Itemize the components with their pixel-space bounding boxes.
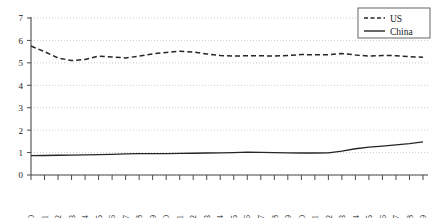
x-tick-label: 2004 bbox=[351, 214, 361, 218]
y-tick-label: 1 bbox=[19, 148, 24, 158]
x-tick-label: 2008 bbox=[405, 215, 415, 218]
x-tick-label: 2005 bbox=[364, 215, 374, 218]
x-tick-label: 2000 bbox=[297, 215, 307, 218]
x-tick-label: 1985 bbox=[94, 215, 104, 218]
x-tick-label: 1996 bbox=[242, 215, 252, 218]
gridlines bbox=[31, 18, 428, 175]
x-tick-label: 2003 bbox=[337, 215, 347, 218]
x-tick-label: 1994 bbox=[215, 214, 225, 218]
y-axis: 01234567 bbox=[19, 13, 32, 180]
x-tick-label: 1998 bbox=[270, 215, 280, 218]
x-tick-label: 1990 bbox=[161, 215, 171, 218]
x-tick-label: 1993 bbox=[202, 215, 212, 218]
y-tick-label: 3 bbox=[19, 103, 24, 113]
y-tick-label: 5 bbox=[19, 58, 24, 68]
x-tick-label: 1999 bbox=[283, 215, 293, 218]
x-tick-label: 1995 bbox=[229, 215, 239, 218]
x-tick-label: 2006 bbox=[378, 215, 388, 218]
x-tick-label: 1983 bbox=[67, 215, 77, 218]
x-tick-label: 2002 bbox=[324, 215, 334, 218]
series-line-china bbox=[31, 142, 423, 156]
x-axis: 1980198119821983198419851986198719881989… bbox=[26, 175, 428, 218]
chart-legend: USChina bbox=[358, 8, 430, 38]
line-chart: 01234567 1980198119821983198419851986198… bbox=[0, 0, 439, 218]
y-tick-label: 0 bbox=[19, 170, 24, 180]
x-tick-label: 1984 bbox=[80, 214, 90, 218]
x-tick-label: 2007 bbox=[391, 215, 401, 218]
x-tick-label: 1988 bbox=[134, 215, 144, 218]
y-tick-label: 2 bbox=[19, 126, 24, 136]
x-tick-label: 1991 bbox=[175, 215, 185, 218]
x-tick-label: 1982 bbox=[53, 215, 63, 218]
x-tick-label: 1989 bbox=[148, 215, 158, 218]
y-tick-label: 6 bbox=[19, 36, 24, 46]
x-tick-label: 1987 bbox=[121, 215, 131, 218]
y-tick-label: 7 bbox=[19, 13, 24, 23]
y-tick-label: 4 bbox=[19, 81, 24, 91]
series-line-us bbox=[31, 46, 423, 61]
x-tick-label: 1997 bbox=[256, 215, 266, 218]
x-tick-label: 1992 bbox=[188, 215, 198, 218]
x-tick-label: 1980 bbox=[26, 215, 36, 218]
legend-label-china: China bbox=[390, 27, 413, 37]
x-tick-label: 1981 bbox=[40, 215, 50, 218]
chart-container: 01234567 1980198119821983198419851986198… bbox=[0, 0, 439, 218]
x-tick-label: 1986 bbox=[107, 215, 117, 218]
x-tick-label: 2009 bbox=[418, 215, 428, 218]
x-tick-label: 2001 bbox=[310, 215, 320, 218]
legend-label-us: US bbox=[390, 14, 402, 24]
